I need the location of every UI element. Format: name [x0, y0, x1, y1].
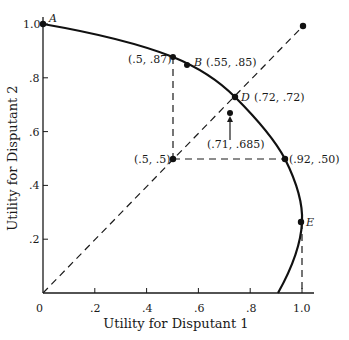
label-b: B: [193, 56, 202, 69]
origin-label: 0: [36, 302, 43, 315]
label-92-50: (.92, .50): [289, 153, 340, 166]
point-top-right: [300, 23, 306, 29]
y-tick-label: .8: [29, 72, 40, 85]
label-d: D: [240, 91, 250, 104]
point-a: [40, 21, 46, 27]
label-e: E: [305, 216, 314, 229]
point-b: [184, 62, 190, 68]
x-tick-label: .8: [246, 302, 257, 315]
y-tick-label: .4: [29, 179, 40, 192]
utility-chart: 0 .2 .4 .6 .8 1.0 .2 .4 .6 .8 1.0 Utilit…: [0, 0, 349, 340]
label-d-coords: (.72, .72): [254, 91, 305, 104]
label-5-87: (.5, .87): [128, 53, 172, 66]
point-d: [232, 94, 238, 100]
x-tick-label: 1.0: [293, 302, 311, 315]
x-ticks: [95, 288, 302, 293]
label-b-coords: (.55, .85): [206, 56, 257, 69]
y-axis-title: Utility for Disputant 2: [5, 85, 20, 230]
point-71-685: [227, 110, 233, 116]
y-tick-label: .2: [29, 233, 40, 246]
label-71-685: (.71, .685): [207, 138, 265, 151]
arrow-head-icon: [227, 116, 233, 122]
x-tick-label: .2: [90, 302, 101, 315]
label-5-5: (.5, .5): [134, 153, 171, 166]
x-tick-label: .4: [142, 302, 153, 315]
label-a: A: [48, 12, 57, 25]
y-tick-label: 1.0: [23, 18, 41, 31]
x-tick-label: .6: [194, 302, 205, 315]
y-tick-label: .6: [29, 126, 40, 139]
point-92-50: [282, 156, 288, 162]
point-5-5: [170, 156, 176, 162]
x-axis-title: Utility for Disputant 1: [103, 316, 248, 331]
point-e: [298, 219, 304, 225]
y-ticks: [43, 24, 48, 239]
